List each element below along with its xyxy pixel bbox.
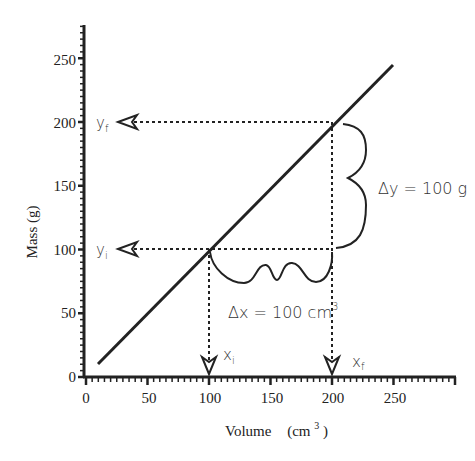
- y-tick-label: 200: [54, 115, 77, 131]
- y-tick-labels: 0 50 100 150 200 250: [54, 52, 77, 385]
- xf-arrow-icon: [325, 357, 339, 374]
- xi-label: xi: [223, 346, 235, 366]
- yf-label: yf: [96, 114, 109, 134]
- x-tick-label: 0: [82, 390, 90, 406]
- y-tick-label: 0: [69, 369, 77, 385]
- y-axis-title: Mass (g): [24, 206, 41, 259]
- x-tick-label: 200: [322, 390, 345, 406]
- delta-y-label: Δy = 100 g: [378, 179, 467, 198]
- x-axis-title: Volume (cm 3 ): [225, 416, 328, 440]
- delta-y-brace: [336, 124, 366, 248]
- y-tick-label: 250: [54, 52, 77, 68]
- delta-x-label: Δx = 100 cm3: [228, 301, 338, 322]
- x-tick-label: 150: [261, 390, 284, 406]
- x-tick-label: 100: [199, 390, 222, 406]
- yi-label: yi: [96, 241, 108, 261]
- mass-volume-chart: 0 50 100 150 200 250 0 50 100 150 200 25…: [0, 0, 475, 461]
- xf-label: xf: [352, 353, 365, 372]
- axes: [83, 25, 456, 378]
- delta-x-brace: [210, 252, 332, 283]
- y-tick-label: 100: [54, 242, 77, 258]
- y-tick-label: 50: [61, 305, 76, 321]
- x-tick-label: 250: [384, 390, 407, 406]
- x-tick-labels: 0 50 100 150 200 250: [82, 390, 406, 406]
- x-axis-ticks: [86, 377, 455, 385]
- y-tick-label: 150: [54, 178, 77, 194]
- x-tick-label: 50: [142, 390, 157, 406]
